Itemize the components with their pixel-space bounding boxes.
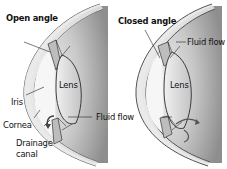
cornea-label: Cornea: [3, 121, 32, 129]
drainage-canal-label-line1: Drainage: [16, 139, 53, 147]
lens-label-right: Lens: [170, 81, 189, 89]
lens-label-left: Lens: [59, 81, 78, 89]
closed-angle-label: Closed angle: [118, 17, 176, 25]
fluid-flow-label-top: Fluid flow: [187, 38, 225, 46]
fluid-flow-label-middle: Fluid flow: [96, 113, 134, 121]
drainage-canal-label-line2: canal: [16, 150, 38, 158]
open-angle-label: Open angle: [6, 14, 58, 22]
iris-label: Iris: [11, 98, 23, 106]
glaucoma-angle-diagram: Open angle Lens Iris Cornea Drainage can…: [0, 0, 227, 169]
